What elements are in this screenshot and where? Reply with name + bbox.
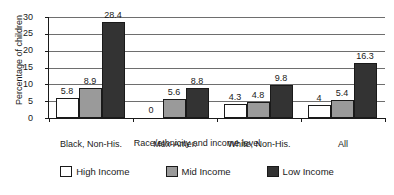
y-tick-label: 30 (0, 13, 33, 22)
bar-low-income: 9.8 (270, 85, 293, 118)
y-tick-mark (45, 68, 49, 69)
legend-label-high-income: High Income (76, 167, 129, 177)
y-tick-mark (45, 17, 49, 18)
bar-mid-income: 5.6 (163, 99, 186, 118)
x-tick-mark (49, 118, 50, 122)
y-tick-label: 5 (0, 97, 33, 106)
bar-mid-income: 5.4 (331, 100, 354, 118)
bar-value-label: 5.4 (336, 89, 349, 98)
bar-value-label: 4 (316, 94, 321, 103)
x-axis-title: Race/ethnicity and income level (0, 138, 394, 148)
bar-value-label: 5.8 (61, 87, 74, 96)
bar-low-income: 28.4 (102, 22, 125, 118)
bar-value-label: 4.3 (229, 93, 242, 102)
bar-value-label: 9.8 (275, 74, 288, 83)
high-income-swatch-icon (60, 166, 72, 177)
plot-area: 0510152025305.88.928.4Black, Non-His.05.… (48, 17, 385, 119)
bar-value-label: 8.8 (191, 77, 204, 86)
y-tick-mark (45, 101, 49, 102)
legend-item-high-income: High Income (60, 166, 129, 177)
bar-high-income: 5.8 (56, 98, 79, 118)
bar-low-income: 8.8 (186, 88, 209, 118)
bar-group: 45.416.3 (308, 17, 377, 118)
bar-group: 4.34.89.8 (224, 17, 293, 118)
bar-value-label: 16.3 (356, 52, 374, 61)
bar-value-label: 4.8 (252, 91, 265, 100)
legend-item-low-income: Low Income (267, 166, 334, 177)
bar-group: 05.68.8 (140, 17, 209, 118)
bar-value-label: 0 (148, 106, 153, 115)
bar-value-label: 8.9 (84, 77, 97, 86)
x-tick-mark (217, 118, 218, 122)
y-tick-label: 10 (0, 80, 33, 89)
mid-income-swatch-icon (166, 166, 178, 177)
x-tick-mark (301, 118, 302, 122)
legend-label-mid-income: Mid Income (182, 167, 231, 177)
y-tick-mark (45, 84, 49, 85)
bar-group: 5.88.928.4 (56, 17, 125, 118)
bar-low-income: 16.3 (354, 63, 377, 118)
chart-legend: High Income Mid Income Low Income (0, 166, 394, 177)
x-tick-mark (133, 118, 134, 122)
y-tick-label: 25 (0, 29, 33, 38)
legend-item-mid-income: Mid Income (166, 166, 231, 177)
y-tick-label: 0 (0, 114, 33, 123)
bar-mid-income: 8.9 (79, 88, 102, 118)
bar-value-label: 28.4 (104, 11, 122, 20)
x-tick-mark (385, 118, 386, 122)
legend-label-low-income: Low Income (283, 167, 334, 177)
bar-value-label: 5.6 (168, 88, 181, 97)
low-income-swatch-icon (267, 166, 279, 177)
y-tick-label: 20 (0, 46, 33, 55)
bar-high-income: 4 (308, 105, 331, 118)
y-tick-mark (45, 34, 49, 35)
y-tick-label: 15 (0, 63, 33, 72)
bar-chart: Percentage of children 0510152025305.88.… (0, 0, 394, 195)
bar-mid-income: 4.8 (247, 102, 270, 118)
y-tick-mark (45, 51, 49, 52)
bar-high-income: 4.3 (224, 104, 247, 118)
